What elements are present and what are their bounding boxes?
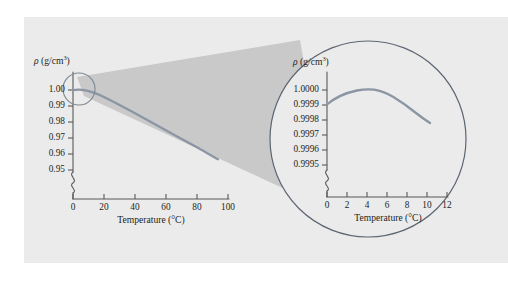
inset-x-label-5: 10 bbox=[417, 200, 437, 210]
main-x-axis-title: Temperature (°C) bbox=[81, 214, 221, 225]
main-y-label-4: 0.96 bbox=[30, 148, 65, 158]
main-x-label-3: 60 bbox=[156, 202, 176, 212]
inset-y-label-5: 0.9995 bbox=[275, 159, 319, 169]
inset-y-label-2: 0.9998 bbox=[275, 114, 319, 124]
main-x-label-5: 100 bbox=[217, 202, 239, 212]
inset-y-label-0: 1.0000 bbox=[275, 84, 319, 94]
inset-y-label-4: 0.9996 bbox=[275, 144, 319, 154]
main-x-label-0: 0 bbox=[63, 202, 83, 212]
inset-y-label-3: 0.9997 bbox=[275, 129, 319, 139]
inset-x-label-4: 8 bbox=[397, 200, 417, 210]
main-y-paren: ) bbox=[67, 55, 70, 66]
main-y-axis-break bbox=[72, 172, 75, 193]
inset-y-paren: ) bbox=[326, 56, 329, 67]
main-y-label-3: 0.97 bbox=[30, 132, 65, 142]
main-x-label-4: 80 bbox=[187, 202, 207, 212]
main-y-units: (g/cm bbox=[39, 55, 64, 66]
main-y-label-2: 0.98 bbox=[30, 116, 65, 126]
main-y-axis-title: ρ (g/cm3) bbox=[34, 54, 70, 66]
inset-x-axis-title: Temperature (°C) bbox=[318, 212, 458, 223]
inset-y-axis-title: ρ (g/cm3) bbox=[293, 55, 329, 67]
figure-graphics bbox=[0, 0, 508, 281]
inset-x-label-3: 6 bbox=[377, 200, 397, 210]
inset-x-label-2: 4 bbox=[357, 200, 377, 210]
main-x-label-1: 20 bbox=[94, 202, 114, 212]
inset-y-label-1: 0.9999 bbox=[275, 99, 319, 109]
main-y-label-5: 0.95 bbox=[30, 164, 65, 174]
inset-x-label-0: 0 bbox=[317, 200, 337, 210]
main-y-label-0: 1.00 bbox=[30, 84, 65, 94]
inset-x-label-6: 12 bbox=[437, 200, 457, 210]
inset-x-label-1: 2 bbox=[337, 200, 357, 210]
main-y-label-1: 0.99 bbox=[30, 100, 65, 110]
inset-y-units: (g/cm bbox=[298, 56, 323, 67]
main-x-label-2: 40 bbox=[125, 202, 145, 212]
